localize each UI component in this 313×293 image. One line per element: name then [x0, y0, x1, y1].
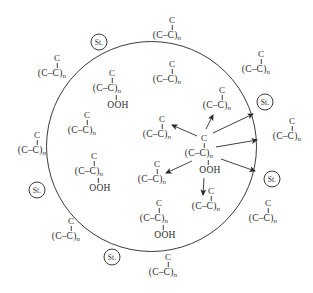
hydroperoxide-inside-bottom: C(C–C)nOOH	[140, 199, 168, 240]
chain-unit-label: (C–C)n	[249, 214, 277, 223]
chain-unit-label: (C–C)n	[18, 146, 46, 155]
reaction-arrow	[216, 140, 257, 147]
chain-outside-bottom-right: C(C–C)n	[249, 199, 277, 223]
chain-subscript: n	[168, 133, 172, 141]
chain-outside-left: C(C–C)n	[18, 131, 46, 155]
chain-outside-right: C(C–C)n	[273, 117, 301, 141]
chain-subscript: n	[178, 34, 182, 42]
carbon-atom-label: C	[278, 117, 306, 125]
chain-unit-label: (C–C)n	[68, 126, 96, 135]
carbon-atom-label: C	[73, 111, 101, 119]
diagram-canvas	[0, 0, 313, 293]
chain-subscript: n	[43, 149, 47, 157]
chain-unit-text: (C–C)	[140, 213, 165, 223]
chain-outside-top-right: C(C–C)n	[242, 50, 270, 74]
reaction-arrow	[206, 115, 213, 129]
carbon-atom-label: C	[158, 60, 186, 68]
hydroperoxide-label: OOH	[151, 231, 179, 240]
chain-outside-bottom: C(C–C)n	[149, 253, 177, 277]
chain-subscript: n	[274, 217, 278, 225]
carbon-atom-label: C	[254, 199, 282, 207]
chain-unit-text: (C–C)	[93, 83, 118, 93]
chain-unit-label: (C–C)n	[153, 75, 181, 84]
chain-subscript: n	[165, 217, 169, 225]
chain-subscript: n	[228, 104, 232, 112]
chain-outside-top-left: C(C–C)n	[38, 54, 66, 78]
chain-unit-label: (C–C)n	[52, 232, 80, 241]
chain-outside-top: C(C–C)n	[153, 16, 181, 40]
carbon-atom-label: C	[98, 69, 126, 77]
chain-subscript: n	[267, 68, 271, 76]
chain-unit-label: (C–C)n	[242, 65, 270, 74]
carbon-atom-label: C	[197, 187, 225, 195]
carbon-atom-label: C	[158, 16, 186, 24]
st-label-bottom: St.	[104, 249, 121, 266]
figure: C(C–C)nC(C–C)nC(C–C)nC(C–C)nC(C–C)nC(C–C…	[0, 0, 313, 293]
styrene-text: St.	[95, 38, 104, 47]
chain-unit-text: (C–C)	[153, 30, 178, 40]
hydroperoxide-inside-upper-left: C(C–C)nOOH	[93, 69, 121, 110]
chain-subscript: n	[163, 178, 167, 186]
chain-unit-text: (C–C)	[75, 166, 100, 176]
st-label-top: St.	[91, 34, 108, 51]
chain-unit-text: (C–C)	[143, 129, 168, 139]
chain-unit-label: (C–C)n	[93, 84, 121, 93]
chain-inside-left: C(C–C)n	[68, 111, 96, 135]
chain-subscript: n	[93, 129, 97, 137]
chain-subscript: n	[100, 170, 104, 178]
chain-unit-label: (C–C)n	[38, 69, 66, 78]
carbon-atom-label: C	[208, 86, 236, 94]
chain-unit-text: (C–C)	[242, 64, 267, 74]
chain-inside-top: C(C–C)n	[153, 60, 181, 84]
hydroperoxide-center: C(C–C)nOOH	[185, 134, 213, 175]
carbon-atom-label: C	[43, 54, 71, 62]
chain-unit-label: (C–C)n	[273, 132, 301, 141]
chain-unit-text: (C–C)	[273, 131, 298, 141]
st-label-right-upper: St.	[257, 94, 274, 111]
carbon-atom-label: C	[154, 253, 182, 261]
chain-subscript: n	[63, 72, 67, 80]
carbon-atom-label: C	[143, 160, 171, 168]
chain-unit-text: (C–C)	[185, 148, 210, 158]
styrene-text: St.	[268, 175, 277, 184]
chain-unit-text: (C–C)	[249, 213, 274, 223]
chain-subscript: n	[118, 87, 122, 95]
carbon-atom-label: C	[80, 152, 108, 160]
carbon-atom-label: C	[57, 217, 85, 225]
chain-subscript: n	[217, 205, 221, 213]
chain-unit-label: (C–C)n	[75, 167, 103, 176]
carbon-atom-label: C	[145, 199, 173, 207]
chain-unit-text: (C–C)	[153, 74, 178, 84]
chain-subscript: n	[298, 135, 302, 143]
chain-inside-below-center: C(C–C)n	[192, 187, 220, 211]
chain-unit-text: (C–C)	[18, 145, 43, 155]
chain-unit-text: (C–C)	[203, 100, 228, 110]
chain-unit-text: (C–C)	[138, 174, 163, 184]
chain-subscript: n	[178, 78, 182, 86]
chain-subscript: n	[210, 152, 214, 160]
carbon-atom-label: C	[23, 131, 51, 139]
chain-inside-upper-right: C(C–C)n	[203, 86, 231, 110]
st-label-left: St.	[29, 182, 46, 199]
chain-unit-text: (C–C)	[68, 125, 93, 135]
hydroperoxide-label: OOH	[104, 101, 132, 110]
chain-unit-label: (C–C)n	[203, 101, 231, 110]
chain-unit-text: (C–C)	[52, 231, 77, 241]
hydroperoxide-label: OOH	[196, 166, 224, 175]
chain-unit-text: (C–C)	[192, 201, 217, 211]
st-label-right-lower: St.	[264, 171, 281, 188]
carbon-atom-label: C	[247, 50, 275, 58]
reaction-arrow	[213, 114, 253, 133]
chain-unit-label: (C–C)n	[185, 149, 213, 158]
chain-unit-label: (C–C)n	[143, 130, 171, 139]
styrene-text: St.	[108, 253, 117, 262]
carbon-atom-label: C	[190, 134, 218, 142]
styrene-text: St.	[33, 186, 42, 195]
chain-inside-upper-middle: C(C–C)n	[143, 115, 171, 139]
chain-unit-text: (C–C)	[149, 267, 174, 277]
chain-subscript: n	[174, 271, 178, 279]
chain-unit-label: (C–C)n	[138, 175, 166, 184]
chain-unit-text: (C–C)	[38, 68, 63, 78]
chain-subscript: n	[77, 235, 81, 243]
styrene-text: St.	[261, 98, 270, 107]
